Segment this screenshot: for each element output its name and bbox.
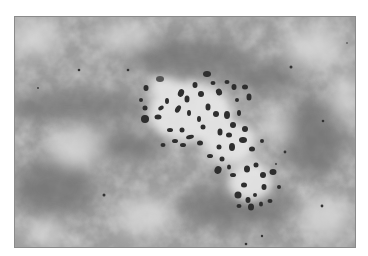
micrograph-frame [14, 16, 356, 248]
micrograph-image [15, 17, 356, 248]
